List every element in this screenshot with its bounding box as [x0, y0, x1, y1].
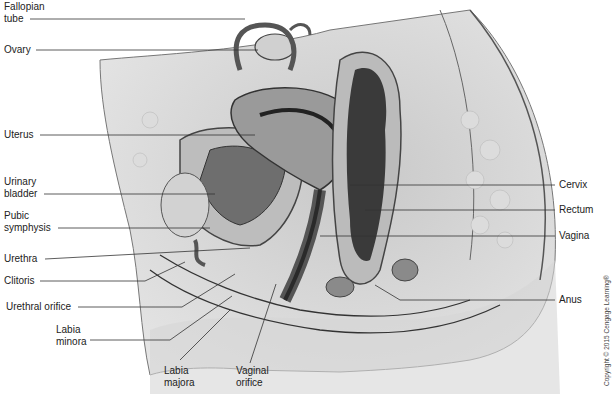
copyright-notice: Copyright © 2015 Cengage Learning® [603, 275, 610, 386]
label-ovary: Ovary [4, 44, 31, 56]
label-uterus: Uterus [4, 129, 33, 141]
label-urethral-orifice: Urethral orifice [6, 301, 71, 313]
label-labia-majora: Labiamajora [164, 365, 195, 388]
label-cervix: Cervix [559, 179, 587, 191]
label-vaginal-orifice: Vaginalorifice [236, 365, 269, 388]
label-urethra: Urethra [4, 253, 37, 265]
label-anus: Anus [559, 294, 582, 306]
label-rectum: Rectum [559, 204, 593, 216]
label-vagina: Vagina [559, 230, 589, 242]
label-labia-minora: Labiaminora [56, 324, 87, 347]
anatomy-illustration [0, 0, 614, 394]
label-pubic-symphysis: Pubicsymphysis [4, 210, 51, 233]
label-fallopian-tube: Fallopiantube [4, 1, 45, 24]
label-clitoris: Clitoris [4, 275, 35, 287]
label-urinary-bladder: Urinarybladder [4, 176, 37, 199]
